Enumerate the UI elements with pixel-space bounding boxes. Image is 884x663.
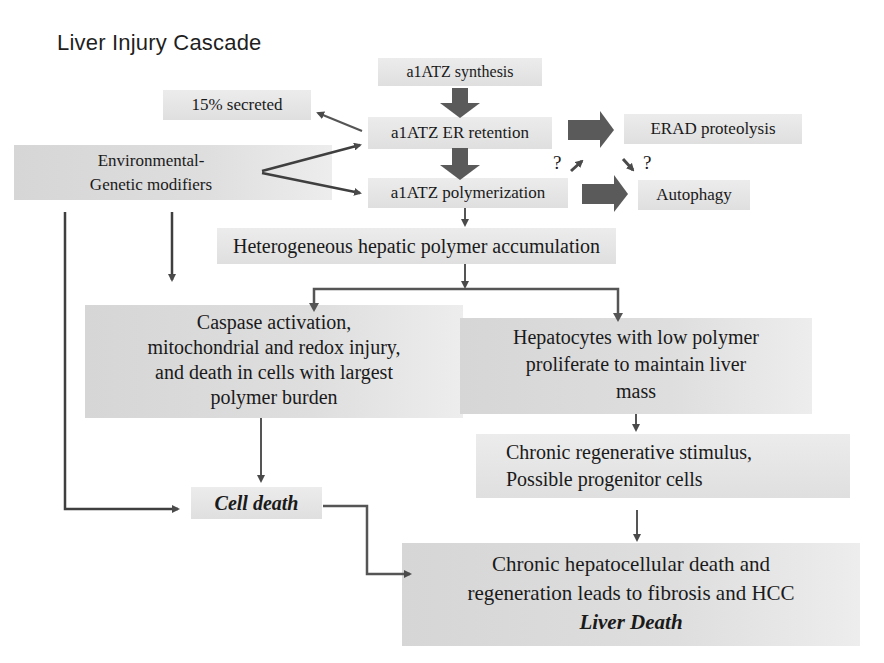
node-caspase: Caspase activation, mitochondrial and re… xyxy=(85,305,463,418)
node-erad-label: ERAD proteolysis xyxy=(650,119,775,138)
block-arrow-synthesis-to-er xyxy=(440,88,480,118)
arrow-question-down xyxy=(623,159,633,170)
node-accumulation-label: Heterogeneous hepatic polymer accumulati… xyxy=(233,235,600,257)
node-polymerization: a1ATZ polymerization xyxy=(368,178,568,208)
node-synthesis-label: a1ATZ synthesis xyxy=(406,63,513,80)
block-arrow-er-to-erad xyxy=(568,111,614,148)
node-regenerative: Chronic regenerative stimulus, Possible … xyxy=(476,434,850,498)
node-autophagy-label: Autophagy xyxy=(656,185,732,204)
node-er-retention: a1ATZ ER retention xyxy=(368,117,552,149)
diagram-title: Liver Injury Cascade xyxy=(57,30,262,56)
block-arrow-er-to-polymerization xyxy=(440,148,480,180)
node-modifiers: Environmental- Genetic modifiers xyxy=(14,145,332,200)
node-autophagy: Autophagy xyxy=(638,180,750,210)
node-liver-death-label: Liver Death xyxy=(402,608,860,637)
block-arrow-polymerization-to-autophagy xyxy=(582,175,628,212)
node-synthesis: a1ATZ synthesis xyxy=(378,58,542,86)
node-caspase-line-2: mitochondrial and redox injury, xyxy=(85,335,463,360)
arrow-er-to-secreted xyxy=(318,113,362,131)
node-regenerative-line-2: Possible progenitor cells xyxy=(506,466,850,493)
node-accumulation: Heterogeneous hepatic polymer accumulati… xyxy=(217,228,616,264)
node-polymerization-label: a1ATZ polymerization xyxy=(391,183,545,202)
node-hepatocytes-line-2: proliferate to maintain liver xyxy=(460,351,812,378)
node-secreted-label: 15% secreted xyxy=(191,95,282,114)
node-cell-death-label: Cell death xyxy=(215,492,299,514)
node-caspase-line-4: polymer burden xyxy=(85,385,463,410)
node-secreted: 15% secreted xyxy=(163,90,311,120)
node-hepatocytes: Hepatocytes with low polymer proliferate… xyxy=(460,318,812,414)
node-chronic: Chronic hepatocellular death and regener… xyxy=(402,543,860,646)
node-caspase-line-1: Caspase activation, xyxy=(85,310,463,335)
question-mark-right: ? xyxy=(643,152,651,174)
node-hepatocytes-line-1: Hepatocytes with low polymer xyxy=(460,324,812,351)
node-modifiers-line-1: Environmental- xyxy=(0,149,332,173)
arrow-cell-death-to-chronic xyxy=(323,506,410,574)
node-caspase-line-3: and death in cells with largest xyxy=(85,360,463,385)
question-mark-left: ? xyxy=(553,152,561,174)
node-regenerative-line-1: Chronic regenerative stimulus, xyxy=(506,439,850,466)
node-chronic-line-1: Chronic hepatocellular death and xyxy=(402,550,860,579)
node-hepatocytes-line-3: mass xyxy=(460,378,812,405)
arrow-question-up xyxy=(571,161,582,171)
node-chronic-line-2: regeneration leads to fibrosis and HCC xyxy=(402,579,860,608)
cropped-caption-fragment xyxy=(0,655,884,663)
node-erad: ERAD proteolysis xyxy=(624,114,802,144)
node-cell-death: Cell death xyxy=(191,487,322,519)
node-er-retention-label: a1ATZ ER retention xyxy=(391,123,529,142)
node-modifiers-line-2: Genetic modifiers xyxy=(0,173,332,197)
